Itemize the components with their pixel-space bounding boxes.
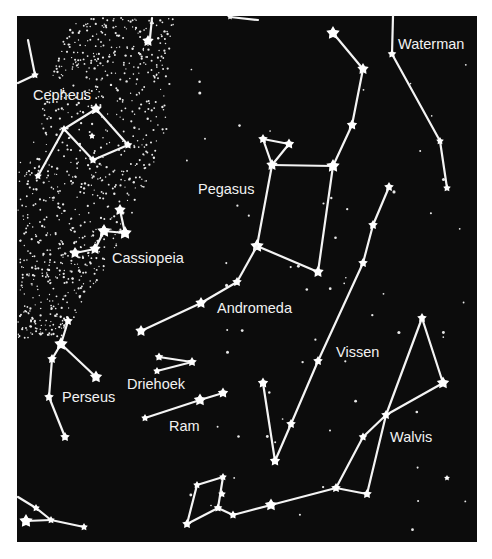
faint-star (371, 314, 373, 316)
faint-star (26, 173, 28, 175)
faint-star (55, 328, 56, 329)
faint-star (154, 150, 156, 152)
faint-star (58, 303, 59, 304)
faint-star (49, 249, 50, 250)
faint-star (88, 67, 90, 69)
faint-star (66, 301, 68, 303)
faint-star (41, 325, 42, 326)
faint-star (80, 275, 81, 276)
constellation-label: Waterman (398, 36, 464, 52)
faint-star (39, 320, 40, 321)
faint-star (125, 80, 127, 82)
faint-star (138, 107, 140, 109)
faint-star (47, 175, 49, 177)
faint-star (266, 435, 269, 438)
faint-star (149, 103, 151, 105)
faint-star (42, 275, 44, 277)
faint-star (72, 32, 74, 34)
faint-star (22, 327, 24, 329)
faint-star (31, 333, 33, 335)
faint-star (111, 72, 113, 74)
faint-star (93, 56, 95, 58)
faint-star (98, 91, 100, 93)
faint-star (61, 107, 63, 109)
faint-star (153, 80, 155, 82)
faint-star (45, 320, 47, 322)
faint-star (158, 72, 159, 73)
faint-star (25, 311, 27, 313)
faint-star (145, 134, 147, 136)
faint-star (20, 198, 22, 200)
constellation-label: Ram (169, 418, 200, 434)
faint-star (48, 334, 49, 335)
faint-star (152, 129, 154, 131)
faint-star (47, 232, 48, 233)
faint-star (66, 51, 68, 53)
faint-star (62, 75, 64, 77)
faint-star (31, 238, 33, 240)
faint-star (157, 77, 159, 79)
faint-star (36, 260, 38, 262)
faint-star (57, 202, 59, 204)
faint-star (162, 21, 164, 23)
faint-star (67, 148, 69, 150)
faint-star (105, 25, 107, 27)
faint-star (133, 145, 135, 147)
faint-star (112, 188, 114, 190)
faint-star (148, 100, 150, 102)
faint-star (96, 33, 97, 34)
constellation-label: Pegasus (198, 181, 254, 197)
constellation-label: Driehoek (127, 376, 186, 392)
faint-star (76, 112, 78, 114)
faint-star (75, 176, 77, 178)
faint-star (95, 172, 96, 173)
faint-star (92, 18, 94, 20)
faint-star (98, 96, 100, 98)
faint-star (92, 234, 94, 236)
faint-star (135, 27, 137, 29)
faint-star (72, 176, 73, 177)
faint-star (345, 277, 347, 279)
faint-star (126, 46, 128, 48)
faint-star (135, 165, 136, 166)
faint-star (78, 267, 79, 268)
faint-star (83, 192, 85, 194)
faint-star (127, 193, 129, 195)
faint-star (120, 223, 121, 224)
faint-star (101, 25, 103, 27)
faint-star (84, 221, 86, 223)
faint-star (48, 181, 49, 182)
faint-star (87, 205, 89, 207)
faint-star (70, 218, 72, 220)
faint-star (33, 255, 35, 257)
faint-star (91, 123, 93, 125)
faint-star (94, 150, 96, 152)
faint-star (24, 245, 25, 246)
faint-star (92, 35, 94, 37)
faint-star (62, 141, 64, 143)
constellation-label: Vissen (336, 344, 379, 360)
faint-star (130, 163, 132, 165)
faint-star (100, 46, 101, 47)
faint-star (46, 118, 48, 120)
faint-star (204, 138, 206, 140)
faint-star (89, 39, 91, 41)
faint-star (129, 78, 131, 80)
faint-star (105, 166, 107, 168)
faint-star (136, 78, 138, 80)
faint-star (103, 246, 105, 248)
faint-star (75, 209, 76, 210)
constellation-label: Walvis (390, 429, 432, 445)
faint-star (140, 103, 142, 105)
faint-star (27, 250, 29, 252)
faint-star (236, 205, 238, 207)
faint-star (60, 324, 62, 326)
faint-star (94, 268, 95, 269)
faint-star (85, 76, 87, 78)
faint-star (344, 360, 346, 362)
faint-star (147, 118, 149, 120)
faint-star (85, 271, 87, 273)
faint-star (87, 184, 89, 186)
faint-star (39, 240, 41, 242)
faint-star (137, 66, 139, 68)
